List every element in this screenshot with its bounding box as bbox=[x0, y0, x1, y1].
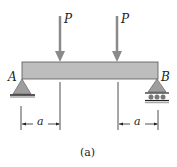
load-label-left: P bbox=[64, 12, 72, 26]
load-label-right: P bbox=[121, 12, 129, 26]
dimension-label-right: a bbox=[134, 115, 141, 128]
support-label-a: A bbox=[8, 70, 17, 84]
beam-diagram: P P A B a a (a) bbox=[0, 0, 177, 167]
diagram-graphics bbox=[0, 0, 177, 167]
dimension-label-left: a bbox=[37, 115, 44, 128]
figure-caption: (a) bbox=[80, 146, 95, 159]
support-label-b: B bbox=[161, 70, 170, 84]
beam bbox=[22, 62, 158, 79]
